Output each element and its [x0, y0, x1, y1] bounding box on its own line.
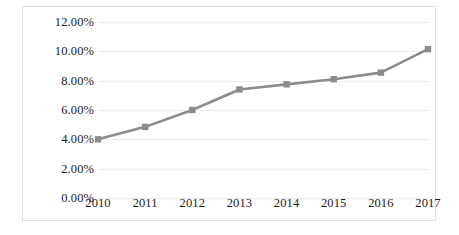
x-tick-label: 2010 [85, 196, 110, 211]
y-tick-label: 2.00% [61, 161, 94, 176]
y-tick-label: 4.00% [61, 132, 94, 147]
y-tick-label: 10.00% [55, 44, 94, 59]
data-point-marker [142, 124, 148, 130]
x-tick-label: 2011 [133, 196, 158, 211]
x-tick-label: 2012 [180, 196, 205, 211]
data-point-marker [189, 107, 195, 113]
y-axis: 0.00%2.00%4.00%6.00%8.00%10.00%12.00% [28, 18, 94, 202]
data-point-marker [283, 81, 289, 87]
y-tick-label: 6.00% [61, 103, 94, 118]
chart-container: 0.00%2.00%4.00%6.00%8.00%10.00%12.00% 20… [0, 0, 459, 235]
data-point-marker [378, 69, 384, 75]
x-tick-label: 2013 [227, 196, 252, 211]
y-tick-label: 8.00% [61, 73, 94, 88]
data-point-marker [425, 46, 431, 52]
data-point-marker [331, 76, 337, 82]
x-tick-label: 2016 [368, 196, 393, 211]
x-tick-label: 2014 [274, 196, 299, 211]
line-series [98, 22, 428, 198]
data-point-marker [236, 86, 242, 92]
data-point-marker [95, 136, 101, 142]
x-axis: 20102011201220132014201520162017 [98, 196, 428, 218]
plot-area [98, 22, 428, 198]
x-tick-label: 2017 [415, 196, 440, 211]
y-tick-label: 12.00% [55, 15, 94, 30]
x-tick-label: 2015 [321, 196, 346, 211]
